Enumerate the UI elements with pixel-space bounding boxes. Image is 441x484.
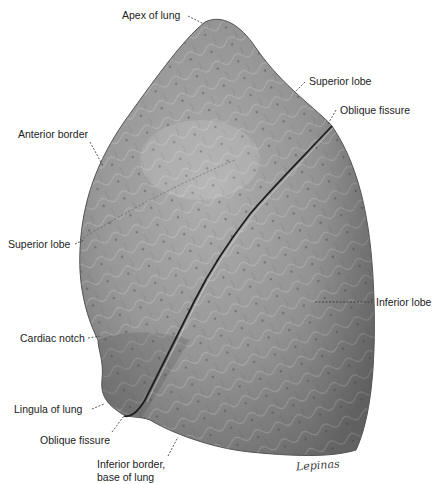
label-oblique-fissure-bottom: Oblique fissure bbox=[40, 434, 110, 447]
label-superior-lobe-left: Superior lobe bbox=[8, 238, 70, 251]
label-apex-of-lung: Apex of lung bbox=[122, 9, 180, 22]
label-oblique-fissure-top: Oblique fissure bbox=[340, 104, 410, 117]
label-lingula-of-lung: Lingula of lung bbox=[14, 403, 82, 416]
label-anterior-border: Anterior border bbox=[18, 128, 88, 141]
label-inferior-lobe: Inferior lobe bbox=[376, 296, 431, 309]
label-base-of-lung: base of lung bbox=[97, 471, 154, 484]
label-cardiac-notch: Cardiac notch bbox=[20, 332, 85, 345]
label-inferior-border: Inferior border, bbox=[97, 458, 165, 471]
label-superior-lobe-top: Superior lobe bbox=[309, 75, 371, 88]
